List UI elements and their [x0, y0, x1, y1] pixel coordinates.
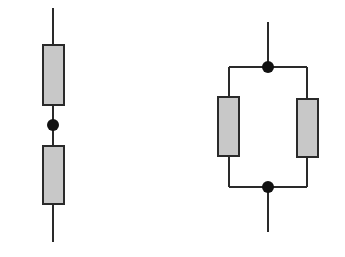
series-circuit: [43, 8, 64, 242]
resistor-icon: [43, 146, 64, 204]
parallel-circuit: [218, 22, 318, 232]
junction-node-icon: [47, 119, 59, 131]
resistor-icon: [218, 97, 239, 156]
resistor-icon: [43, 45, 64, 105]
resistor-icon: [297, 99, 318, 157]
circuit-diagram-svg: [0, 0, 345, 257]
junction-node-icon: [262, 181, 274, 193]
junction-node-icon: [262, 61, 274, 73]
circuit-diagram: [0, 0, 345, 257]
